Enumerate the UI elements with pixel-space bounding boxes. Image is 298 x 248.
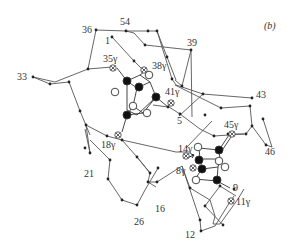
label-46: 46 [265, 146, 275, 157]
label-26: 26 [134, 216, 144, 227]
label-9: 9 [233, 182, 238, 193]
label-54: 54 [120, 16, 130, 27]
residue-labels: 54 36 1 39 35γ 38γ 33 41γ 43 5 45γ 18γ 4… [17, 16, 275, 240]
label-45g: 45γ [224, 119, 239, 130]
crossed-circle-38g [141, 67, 147, 73]
label-12: 12 [185, 229, 195, 240]
label-35g: 35γ [103, 53, 118, 64]
crossed-circle-18g [115, 132, 121, 138]
crossed-circle-8g [190, 165, 196, 171]
label-36: 36 [82, 24, 92, 35]
label-33: 33 [17, 71, 27, 82]
crossed-circle-41g [168, 100, 174, 106]
label-21: 21 [84, 168, 94, 179]
crossed-circle-45g [229, 131, 235, 137]
label-5: 5 [177, 115, 182, 126]
fe-s-cluster-2 [187, 135, 231, 188]
fe-s-cluster-1 [111, 68, 168, 132]
label-8g: 8γ [176, 165, 186, 176]
label-11g: 11γ [236, 196, 251, 207]
crossed-circle-35g [110, 65, 116, 71]
label-39: 39 [187, 37, 197, 48]
label-43: 43 [256, 89, 266, 100]
panel-label: (b) [264, 20, 276, 32]
label-18g: 18γ [101, 139, 116, 150]
label-16: 16 [155, 203, 165, 214]
label-1: 1 [105, 35, 110, 46]
crossed-circle-11g [228, 198, 234, 204]
label-41g: 41γ [165, 86, 180, 97]
label-14g: 14γ [178, 143, 193, 154]
label-38g: 38γ [152, 60, 167, 71]
protein-structure-diagram: 54 36 1 39 35γ 38γ 33 41γ 43 5 45γ 18γ 4… [0, 0, 298, 248]
